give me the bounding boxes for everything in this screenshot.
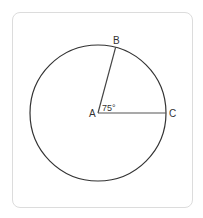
point-b-label: B [113,35,120,46]
angle-label: 75° [102,103,116,113]
point-c-label: C [169,108,176,119]
point-a-label: A [89,108,96,119]
circle-diagram: A B C 75° [0,0,203,218]
